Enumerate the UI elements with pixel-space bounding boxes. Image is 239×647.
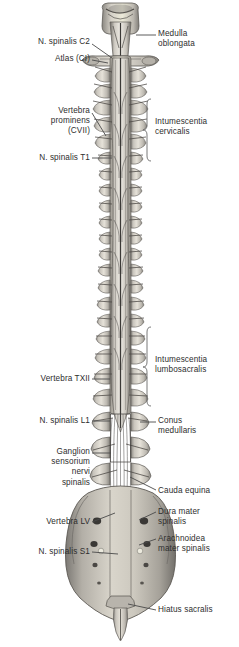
vertebrae-left <box>90 68 110 485</box>
label-medulla-oblongata: Medulla oblongata <box>158 29 238 49</box>
label-vertebra-prominens-cvii: Vertebra prominens (CVII) <box>4 106 90 137</box>
spinal-cord <box>110 58 130 432</box>
vertebrae-right <box>131 68 151 485</box>
hiatus-sacralis-opening <box>106 596 135 609</box>
label-cauda-equina: Cauda equina <box>158 486 238 496</box>
label-vertebra-txii: Vertebra TXII <box>4 374 90 384</box>
label-n-spinalis-t1: N. spinalis T1 <box>4 153 90 163</box>
label-hiatus-sacralis: Hiatus sacralis <box>158 605 238 615</box>
label-n-spinalis-c2: N. spinalis C2 <box>8 37 90 47</box>
label-intumescentia-lumbosacralis: Intumescentia lumbosacralis <box>155 355 239 375</box>
label-ganglion-sensorium-nervi-spinalis: Ganglion sensorium nervi spinalis <box>4 447 90 488</box>
label-vertebra-lv: Vertebra LV <box>4 517 90 527</box>
label-conus-medullaris: Conus medullaris <box>158 416 238 436</box>
label-intumescentia-cervicalis: Intumescentia cervicalis <box>155 117 239 137</box>
label-dura-mater-spinalis: Dura mater spinalis <box>158 507 238 527</box>
spinal-column-figure: N. spinalis C2Atlas (CI)Vertebra promine… <box>0 0 239 647</box>
coccyx <box>113 608 127 641</box>
label-n-spinalis-l1: N. spinalis L1 <box>4 416 90 426</box>
label-atlas-ci: Atlas (CI) <box>8 54 90 64</box>
label-arachnoidea-mater-spinalis: Arachnoidea mater spinalis <box>158 534 238 554</box>
medulla-oblongata-structure <box>110 22 131 56</box>
label-n-spinalis-s1: N. spinalis S1 <box>2 547 90 557</box>
